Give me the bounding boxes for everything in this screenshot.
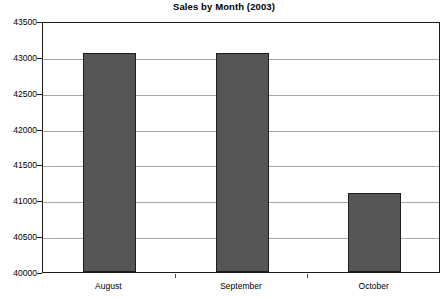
plot-inner — [43, 23, 439, 272]
y-tick-label: 43500 — [1, 18, 37, 27]
y-tick-label: 41000 — [1, 197, 37, 206]
bar-october[interactable] — [348, 193, 401, 272]
x-tick-label: September — [220, 281, 262, 291]
plot-area — [42, 22, 440, 273]
x-tick-mark — [175, 274, 176, 278]
bar-chart: Sales by Month (2003) 400004050041000415… — [0, 0, 448, 298]
y-tick-label: 42500 — [1, 89, 37, 98]
y-tick-label: 41500 — [1, 161, 37, 170]
bar-september[interactable] — [216, 53, 269, 272]
y-tick-label: 43000 — [1, 54, 37, 63]
bar-august[interactable] — [83, 53, 136, 272]
x-tick-label: October — [359, 281, 389, 291]
y-tick-label: 40000 — [1, 269, 37, 278]
y-tick-label: 42000 — [1, 125, 37, 134]
y-tick-label: 40500 — [1, 233, 37, 242]
x-tick-mark — [307, 274, 308, 278]
x-tick-label: August — [95, 281, 121, 291]
chart-title: Sales by Month (2003) — [0, 1, 448, 12]
y-tick-mark — [37, 273, 42, 274]
